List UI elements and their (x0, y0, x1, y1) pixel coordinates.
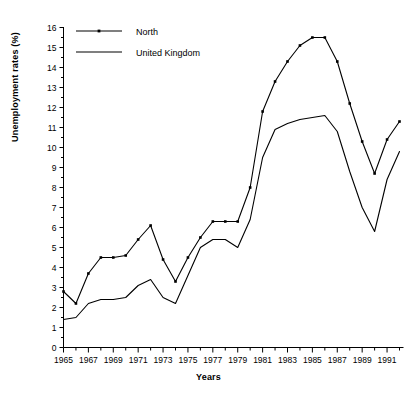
y-axis-tick-label: 10 (47, 143, 57, 153)
chart-figure: 012345678910111213141516 196519671969197… (0, 0, 417, 399)
x-axis-tick-label: 1971 (129, 355, 148, 365)
series-marker-north (386, 138, 389, 141)
x-axis-tick-label: 1969 (104, 355, 123, 365)
x-axis-tick-label: 1965 (54, 355, 73, 365)
y-axis-tick-label: 8 (52, 183, 57, 193)
y-axis-tick-label: 7 (52, 203, 57, 213)
chart-legend: NorthUnited Kingdom (76, 27, 200, 58)
x-axis-tick-label: 1967 (79, 355, 98, 365)
x-axis-tick-label: 1973 (154, 355, 173, 365)
x-axis-tick-label: 1983 (278, 355, 297, 365)
series-marker-north (274, 80, 277, 83)
series-marker-north (75, 302, 78, 305)
series-marker-north (361, 140, 364, 143)
x-axis-tick-label: 1987 (328, 355, 347, 365)
x-axis-tick-label: 1981 (253, 355, 272, 365)
series-marker-north (373, 172, 376, 175)
line-chart-plot: 012345678910111213141516 196519671969197… (0, 0, 417, 399)
y-axis-tick-label: 16 (47, 23, 57, 33)
x-axis-tick-label: 1975 (178, 355, 197, 365)
y-axis-tick-label: 3 (52, 283, 57, 293)
y-axis-tick-label: 14 (47, 63, 57, 73)
y-axis-tick-label: 1 (52, 323, 57, 333)
x-axis: 1965196719691971197319751977197919811983… (54, 348, 403, 365)
series-marker-north (187, 256, 190, 259)
series-marker-north (162, 258, 165, 261)
series-marker-north (324, 36, 327, 39)
series-marker-north (286, 60, 289, 63)
series-marker-north (112, 256, 115, 259)
series-marker-north (62, 290, 65, 293)
series-marker-north (236, 220, 239, 223)
series-marker-north (199, 236, 202, 239)
y-axis-tick-label: 6 (52, 223, 57, 233)
series-marker-north (100, 256, 103, 259)
y-axis: 012345678910111213141516 (47, 23, 63, 353)
series-marker-north (261, 110, 264, 113)
legend-label-north: North (136, 27, 158, 37)
y-axis-tick-label: 0 (52, 343, 57, 353)
series-marker-north (249, 186, 252, 189)
series-marker-north (137, 238, 140, 241)
legend-label-united-kingdom: United Kingdom (136, 48, 200, 58)
series-marker-north (212, 220, 215, 223)
series-marker-north (124, 254, 127, 257)
series-marker-north (311, 36, 314, 39)
series-marker-north (348, 102, 351, 105)
y-axis-tick-label: 15 (47, 43, 57, 53)
x-axis-title: Years (0, 372, 417, 382)
x-axis-tick-label: 1977 (203, 355, 222, 365)
y-axis-tick-label: 12 (47, 103, 57, 113)
data-series-group (62, 36, 401, 319)
y-axis-tick-label: 4 (52, 263, 57, 273)
series-marker-north (87, 272, 90, 275)
x-axis-tick-label: 1989 (353, 355, 372, 365)
series-marker-north (174, 280, 177, 283)
y-axis-tick-label: 13 (47, 83, 57, 93)
series-line-united-kingdom (64, 116, 400, 320)
series-marker-north (336, 60, 339, 63)
series-marker-north (224, 220, 227, 223)
x-axis-tick-label: 1991 (378, 355, 397, 365)
x-axis-tick-label: 1979 (228, 355, 247, 365)
y-axis-title: Unemployment rates (%) (10, 22, 20, 152)
series-marker-north (299, 44, 302, 47)
y-axis-tick-label: 5 (52, 243, 57, 253)
y-axis-tick-label: 9 (52, 163, 57, 173)
series-marker-north (149, 224, 152, 227)
legend-marker-north (98, 30, 101, 33)
series-marker-north (398, 120, 401, 123)
y-axis-tick-label: 2 (52, 303, 57, 313)
y-axis-tick-label: 11 (48, 123, 57, 133)
x-axis-tick-label: 1985 (303, 355, 322, 365)
